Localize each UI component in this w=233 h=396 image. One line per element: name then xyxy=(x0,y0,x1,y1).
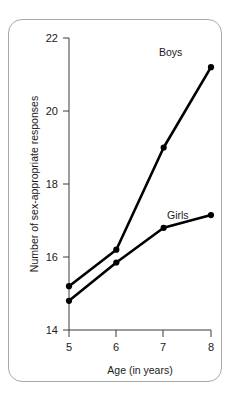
data-point-girls-age-8 xyxy=(208,212,214,218)
y-tick-label-16: 16 xyxy=(46,251,58,263)
x-tick-label-6: 6 xyxy=(113,341,119,353)
x-tick-label-5: 5 xyxy=(66,341,72,353)
data-point-girls-age-6 xyxy=(113,259,119,265)
x-tick-label-8: 8 xyxy=(208,341,214,353)
data-point-boys-age-7 xyxy=(161,144,167,150)
y-tick-label-20: 20 xyxy=(46,105,58,117)
series-line-boys xyxy=(69,67,211,286)
data-point-boys-age-8 xyxy=(208,64,214,70)
y-tick-label-18: 18 xyxy=(46,178,58,190)
y-axis-title: Number of sex-appropriate responses xyxy=(28,96,40,272)
data-point-boys-age-5 xyxy=(66,283,72,289)
line-chart: 22 20 18 16 14 5 6 7 8 Age (in years) Nu… xyxy=(0,0,233,396)
series-markers-girls xyxy=(66,212,214,304)
series-annotation-boys: Boys xyxy=(159,46,182,58)
data-point-boys-age-6 xyxy=(113,247,119,253)
y-tick-label-22: 22 xyxy=(46,32,58,44)
x-axis-title: Age (in years) xyxy=(107,364,172,376)
series-annotation-girls: Girls xyxy=(167,209,189,221)
x-tick-label-7: 7 xyxy=(160,341,166,353)
data-point-girls-age-7 xyxy=(161,225,167,231)
series-line-girls xyxy=(69,215,211,301)
data-point-girls-age-5 xyxy=(66,298,72,304)
y-tick-label-14: 14 xyxy=(46,324,58,336)
